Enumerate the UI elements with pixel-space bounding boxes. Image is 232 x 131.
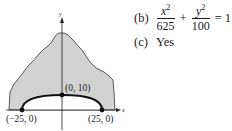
term1-denominator: 625 <box>157 20 175 32</box>
answer-c-label: (c) <box>134 35 148 50</box>
answers: (b) x2 625 + y2 100 = 1 (c) Yes <box>134 4 232 50</box>
plus-sign: + <box>180 11 187 26</box>
term2-exponent: 2 <box>201 3 205 12</box>
y-axis-label: y <box>58 11 62 17</box>
fraction-x: x2 625 <box>157 4 175 32</box>
term2-denominator: 100 <box>192 20 210 32</box>
label-point-top: (0, 10) <box>65 83 90 94</box>
point-left <box>20 108 25 113</box>
answer-c-text: Yes <box>156 35 174 50</box>
point-right <box>100 108 105 113</box>
point-top <box>60 93 65 98</box>
answer-c: (c) Yes <box>134 35 232 50</box>
answer-b: (b) x2 625 + y2 100 = 1 <box>134 4 232 32</box>
y-axis-arrow-icon <box>60 17 64 23</box>
x-axis-label: x <box>121 107 125 113</box>
ellipse-mountain-figure: y x (0, 10) (−25, 0) (25, 0) <box>0 0 125 131</box>
label-point-right: (25, 0) <box>88 114 113 125</box>
answer-b-label: (b) <box>134 11 149 26</box>
x-axis-arrow-icon <box>116 108 121 112</box>
fraction-y: y2 100 <box>192 4 210 32</box>
equals-one: = 1 <box>215 11 231 26</box>
label-point-left: (−25, 0) <box>6 114 37 125</box>
term1-exponent: 2 <box>166 3 170 12</box>
